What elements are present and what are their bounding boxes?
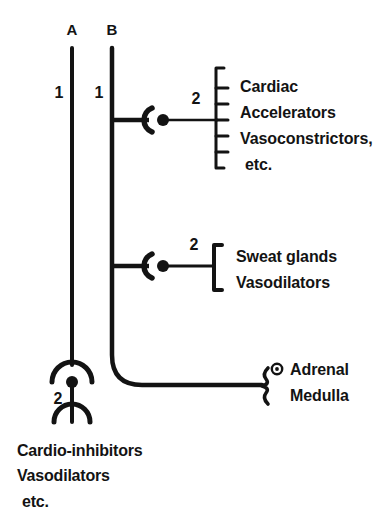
column-a-header: A <box>66 21 77 38</box>
branch-adrenal-effector-line-0: Adrenal <box>290 361 349 378</box>
column-a-effector-line-1: Vasodilators <box>17 467 110 484</box>
column-a-effector-line-2: etc. <box>22 493 49 510</box>
branch-adrenal-ring-dot <box>275 367 279 371</box>
column-a-neuron-2-label: 2 <box>54 390 63 407</box>
branch-cardiac-effector-line-0: Cardiac <box>240 78 298 95</box>
column-a-neuron-1-label: 1 <box>55 84 64 101</box>
branch-cardiac-effector-line-1: Accelerators <box>240 104 336 121</box>
branch-sweat-effector-line-0: Sweat glands <box>236 248 337 265</box>
branch-sweat-effector-line-1: Vasodilators <box>236 274 330 291</box>
column-b-neuron-1-label: 1 <box>95 84 104 101</box>
column-a-effector-line-0: Cardio-inhibitors <box>17 442 143 459</box>
autonomic-pathway-diagram: A 1 2 Cardio-inhibitors Vasodilators etc… <box>0 0 383 522</box>
branch-cardiac-neuron-2-label: 2 <box>192 90 201 107</box>
branch-sweat-neuron-2-label: 2 <box>190 236 199 253</box>
branch-cardiac-effector-line-3: etc. <box>245 156 272 173</box>
column-b-header: B <box>106 21 117 38</box>
branch-adrenal-effector-line-1: Medulla <box>290 387 349 404</box>
diagram-root: A 1 2 Cardio-inhibitors Vasodilators etc… <box>0 0 383 522</box>
branch-cardiac-effector-line-2: Vasoconstrictors, <box>240 130 373 147</box>
